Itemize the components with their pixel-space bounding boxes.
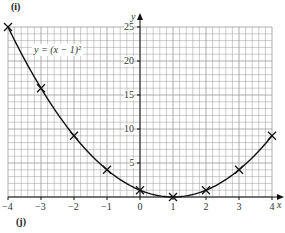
x-tick-label: 4 bbox=[270, 202, 275, 212]
x-tick-label: −4 bbox=[2, 202, 13, 212]
equation-label: y = (x − 1)² bbox=[32, 44, 83, 56]
y-tick-label: 15 bbox=[124, 90, 134, 100]
x-tick-label: 3 bbox=[237, 202, 242, 212]
y-tick-label: 10 bbox=[124, 124, 134, 134]
x-axis-label: x bbox=[277, 200, 281, 210]
x-tick-label: −3 bbox=[35, 202, 46, 212]
chart bbox=[0, 0, 285, 233]
axes bbox=[8, 13, 284, 200]
x-tick-label: 1 bbox=[171, 202, 176, 212]
y-tick-label: 20 bbox=[124, 56, 134, 66]
x-tick-label: 2 bbox=[204, 202, 209, 212]
panel-label-j: (j) bbox=[16, 216, 26, 227]
y-tick-label: 25 bbox=[124, 22, 134, 32]
y-tick-label: 5 bbox=[130, 158, 135, 168]
x-tick-label: −2 bbox=[68, 202, 79, 212]
x-tick-label: 0 bbox=[138, 202, 143, 212]
x-tick-label: −1 bbox=[101, 202, 112, 212]
